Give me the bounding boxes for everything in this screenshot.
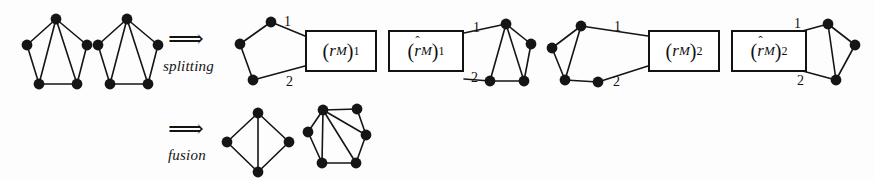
box-index: 1	[438, 44, 444, 59]
graph-vertex	[248, 75, 259, 86]
terminal-edge	[464, 24, 506, 33]
fusion-arrow: ⟹	[168, 116, 204, 141]
graph-vertex	[823, 19, 834, 30]
graph-vertex	[850, 40, 861, 51]
graph-edge	[524, 44, 531, 81]
figure-canvas: ⟹ splitting ⟹ fusion (rM)1 (r̂M)1 (rM)2 …	[0, 0, 875, 181]
r-symbol: r	[329, 41, 336, 61]
close-paren: )	[347, 40, 354, 63]
graph-vertex	[284, 137, 295, 148]
graph-vertex	[222, 137, 233, 148]
m-subscript: M	[336, 43, 347, 59]
graph-vertex	[519, 76, 530, 87]
fusion-label: fusion	[168, 147, 206, 164]
graph-vertex	[593, 77, 604, 88]
m-subscript: M	[764, 43, 775, 59]
box-index: 1	[353, 44, 359, 59]
edge-label-1b: 1	[473, 20, 480, 36]
graph-vertex	[303, 127, 314, 138]
graph-vertex	[22, 40, 33, 51]
graph-vertex	[105, 79, 116, 90]
graph-vertex	[351, 158, 362, 169]
graph-edge	[565, 26, 581, 80]
edge-label-2d: 2	[797, 73, 804, 89]
graph-edge	[227, 142, 258, 172]
r-hat-symbol: r̂	[414, 41, 421, 61]
graph-vertex	[361, 130, 372, 141]
edge-label-2a: 2	[286, 74, 293, 90]
graph-edge	[98, 45, 110, 84]
edge-label-2b: 2	[471, 70, 478, 86]
graph-drawing-layer	[0, 0, 875, 181]
graph-edge	[258, 142, 289, 172]
edge-label-1a: 1	[284, 14, 291, 30]
graph-vertex	[831, 75, 842, 86]
graph-split-frag-1	[235, 17, 305, 86]
close-paren: )	[432, 40, 439, 63]
graph-vertex	[34, 79, 45, 90]
box-rm-2: (rM)2	[648, 30, 720, 72]
box-index: 2	[696, 44, 702, 59]
open-paren: (	[408, 40, 415, 63]
graph-edge	[227, 113, 258, 142]
graph-edge	[836, 45, 855, 80]
graph-vertex	[501, 19, 512, 30]
graph-edge	[98, 19, 127, 45]
graph-edge	[77, 45, 87, 84]
open-paren: (	[323, 40, 330, 63]
box-index: 2	[781, 44, 787, 59]
box-rm-1: (rM)1	[305, 30, 377, 72]
graph-vertex	[485, 76, 496, 87]
splitting-arrow: ⟹	[168, 26, 204, 51]
graph-vertex	[560, 75, 571, 86]
graph-vertex	[526, 39, 537, 50]
splitting-label: splitting	[163, 58, 214, 75]
graph-edge	[490, 24, 506, 81]
graph-vertex	[235, 39, 246, 50]
box-rhat-m-2: (r̂M)2	[731, 30, 807, 72]
m-subscript: M	[421, 43, 432, 59]
graph-edge	[148, 45, 158, 84]
graph-m-right	[93, 14, 164, 90]
open-paren: (	[751, 40, 758, 63]
graph-vertex	[72, 79, 83, 90]
graph-edge	[27, 19, 56, 45]
graph-vertex	[253, 167, 264, 178]
graph-m-left	[22, 14, 93, 90]
graph-edge	[506, 24, 524, 81]
graph-edge	[240, 22, 271, 44]
graph-edge	[258, 113, 289, 142]
graph-vertex	[547, 43, 558, 54]
r-hat-symbol: r̂	[757, 41, 764, 61]
edge-label-1d: 1	[794, 16, 801, 32]
graph-vertex	[122, 14, 133, 25]
graph-vertex	[318, 105, 329, 116]
close-paren: )	[690, 40, 697, 63]
graph-vertex	[266, 17, 277, 28]
graph-edge	[27, 45, 39, 84]
graph-split-frag-3	[547, 21, 648, 88]
graph-vertex	[51, 14, 62, 25]
graph-edge	[552, 26, 581, 48]
edge-label-1c: 1	[614, 19, 621, 35]
r-symbol: r	[672, 41, 679, 61]
close-paren: )	[775, 40, 782, 63]
graph-edge	[323, 110, 356, 163]
graph-vertex	[352, 104, 363, 115]
graph-vertex	[82, 40, 93, 51]
m-subscript: M	[679, 43, 690, 59]
terminal-edge	[253, 66, 305, 80]
graph-vertex	[143, 79, 154, 90]
graph-vertex	[93, 40, 104, 51]
graph-vertex	[317, 158, 328, 169]
graph-edge	[110, 19, 127, 84]
box-rhat-m-1: (r̂M)1	[388, 30, 464, 72]
graph-vertex	[253, 108, 264, 119]
edge-label-2c: 2	[613, 74, 620, 90]
terminal-edge	[598, 66, 648, 82]
graph-edge	[322, 110, 323, 163]
graph-edge	[828, 24, 836, 80]
graph-vertex	[153, 40, 164, 51]
graph-vertex	[576, 21, 587, 32]
open-paren: (	[666, 40, 673, 63]
